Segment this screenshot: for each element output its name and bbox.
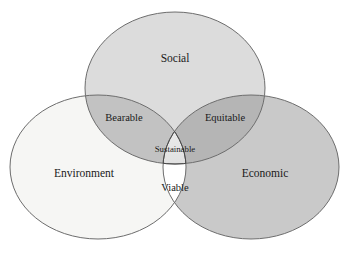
venn-diagram-canvas: Social Environment Economic Bearable Equ… [0, 0, 347, 254]
sustainability-venn-diagram: Social Environment Economic Bearable Equ… [0, 0, 347, 254]
set-fills [10, 12, 339, 239]
